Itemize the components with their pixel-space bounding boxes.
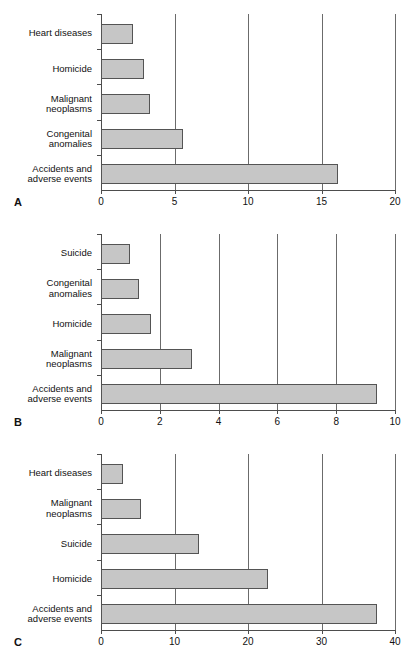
y-axis-tick <box>97 375 101 376</box>
x-axis-tick-label: 0 <box>88 636 114 647</box>
category-label-line: neoplasms <box>0 509 92 520</box>
y-axis-tick <box>97 454 101 455</box>
y-axis-tick <box>97 560 101 561</box>
x-axis-tick-label: 8 <box>323 416 349 427</box>
bar <box>101 314 151 334</box>
panel-letter-a: A <box>14 196 22 208</box>
x-axis-tick-label: 40 <box>382 636 408 647</box>
category-label-line: neoplasms <box>0 104 92 115</box>
x-axis-tick <box>101 630 102 634</box>
x-axis-tick-label: 15 <box>309 196 335 207</box>
bar <box>101 279 139 299</box>
bar <box>101 349 192 369</box>
category-label: Malignantneoplasms <box>0 498 92 519</box>
x-axis-tick-label: 4 <box>206 416 232 427</box>
gridline <box>395 454 396 630</box>
y-axis-tick <box>97 524 101 525</box>
x-axis-tick <box>248 630 249 634</box>
chart-panel-c: C Heart diseasesMalignantneoplasmsSuicid… <box>0 440 419 659</box>
category-label: Accidents andadverse events <box>0 384 92 405</box>
category-label: Malignantneoplasms <box>0 349 92 370</box>
category-labels-a: Heart diseasesHomicideMalignantneoplasms… <box>0 14 96 190</box>
category-label-line: adverse events <box>0 614 92 625</box>
bar <box>101 499 141 519</box>
gridline <box>395 14 396 190</box>
x-axis-tick-label: 5 <box>162 196 188 207</box>
category-label: Congenitalanomalies <box>0 278 92 299</box>
category-label: Homicide <box>0 64 92 75</box>
x-axis-tick-label: 10 <box>162 636 188 647</box>
category-label-line: anomalies <box>0 289 92 300</box>
category-label-line: Suicide <box>0 539 92 550</box>
x-axis-tick <box>101 190 102 194</box>
category-label: Accidents andadverse events <box>0 604 92 625</box>
x-axis-tick <box>322 190 323 194</box>
category-label-line: Suicide <box>0 248 92 259</box>
plot-area-c: 010203040 <box>101 454 395 630</box>
category-label: Homicide <box>0 319 92 330</box>
category-label-line: Heart diseases <box>0 468 92 479</box>
category-label-line: neoplasms <box>0 359 92 370</box>
category-label-line: Homicide <box>0 574 92 585</box>
x-axis-tick <box>277 410 278 414</box>
x-axis-tick <box>175 630 176 634</box>
chart-panel-b: B SuicideCongenitalanomaliesHomicideMali… <box>0 220 419 440</box>
bar <box>101 59 144 79</box>
x-axis-tick-label: 0 <box>88 416 114 427</box>
bar <box>101 569 268 589</box>
y-axis-tick <box>97 155 101 156</box>
x-axis-tick-label: 20 <box>382 196 408 207</box>
category-label-line: Homicide <box>0 64 92 75</box>
bar <box>101 384 377 404</box>
bar <box>101 604 377 624</box>
y-axis-tick <box>97 269 101 270</box>
x-axis-tick-label: 2 <box>147 416 173 427</box>
bar <box>101 534 199 554</box>
category-label: Congenitalanomalies <box>0 129 92 150</box>
x-axis-tick <box>322 630 323 634</box>
category-label-line: anomalies <box>0 139 92 150</box>
bar <box>101 164 338 184</box>
bar <box>101 24 133 44</box>
x-axis-tick <box>175 190 176 194</box>
bar <box>101 94 150 114</box>
category-label: Heart diseases <box>0 28 92 39</box>
y-axis-tick <box>97 14 101 15</box>
plot-area-b: 0246810 <box>101 234 395 410</box>
y-axis-tick <box>97 340 101 341</box>
y-axis-tick <box>97 234 101 235</box>
x-axis-line <box>101 410 396 411</box>
y-axis-tick <box>97 304 101 305</box>
x-axis-tick-label: 30 <box>309 636 335 647</box>
y-axis-tick <box>97 489 101 490</box>
panel-letter-b: B <box>14 416 22 428</box>
x-axis-tick-label: 10 <box>382 416 408 427</box>
category-label: Malignantneoplasms <box>0 94 92 115</box>
x-axis-tick <box>248 190 249 194</box>
category-label-line: adverse events <box>0 394 92 405</box>
y-axis-tick <box>97 120 101 121</box>
category-labels-c: Heart diseasesMalignantneoplasmsSuicideH… <box>0 454 96 630</box>
category-label-line: Heart diseases <box>0 28 92 39</box>
category-labels-b: SuicideCongenitalanomaliesHomicideMalign… <box>0 234 96 410</box>
y-axis-tick <box>97 595 101 596</box>
y-axis-tick <box>97 84 101 85</box>
x-axis-tick <box>336 410 337 414</box>
bar <box>101 244 130 264</box>
x-axis-tick-label: 10 <box>235 196 261 207</box>
x-axis-tick-label: 20 <box>235 636 261 647</box>
bar <box>101 129 183 149</box>
x-axis-tick <box>395 190 396 194</box>
category-label: Heart diseases <box>0 468 92 479</box>
chart-panel-a: A Heart diseasesHomicideMalignantneoplas… <box>0 0 419 220</box>
x-axis-tick-label: 0 <box>88 196 114 207</box>
panel-letter-c: C <box>14 636 22 648</box>
gridline <box>395 234 396 410</box>
x-axis-tick <box>219 410 220 414</box>
x-axis-tick <box>101 410 102 414</box>
category-label-line: adverse events <box>0 174 92 185</box>
category-label: Suicide <box>0 539 92 550</box>
x-axis-tick <box>160 410 161 414</box>
plot-area-a: 05101520 <box>101 14 395 190</box>
category-label: Suicide <box>0 248 92 259</box>
